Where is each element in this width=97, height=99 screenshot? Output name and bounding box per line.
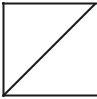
diagram-canvas — [0, 0, 97, 99]
square-diagonal-figure — [0, 0, 97, 99]
diagonal-line — [4, 4, 95, 95]
